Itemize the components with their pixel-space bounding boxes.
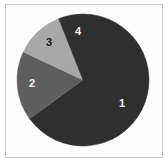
pie-slice-label-4: 4 <box>75 26 81 37</box>
pie-chart-svg <box>0 0 168 163</box>
pie-slices-group <box>17 14 149 146</box>
pie-chart-plot-area: 1 2 3 4 <box>0 0 168 163</box>
pie-slice-label-1: 1 <box>119 98 125 109</box>
pie-slice-label-3: 3 <box>46 37 52 48</box>
pie-slice-label-2: 2 <box>29 78 35 89</box>
pie-chart-figure: 1 2 3 4 <box>0 0 168 163</box>
